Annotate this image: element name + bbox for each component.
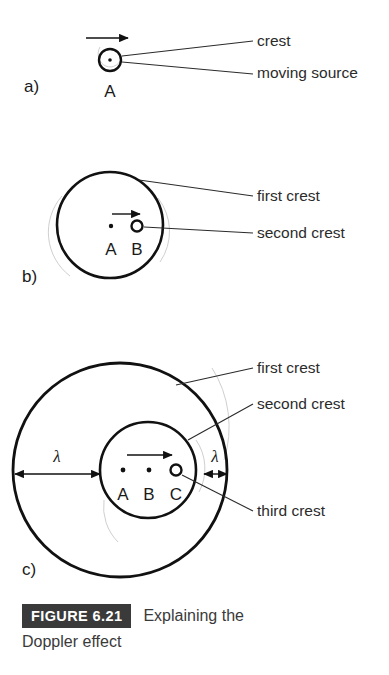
figure-number-badge: FIGURE 6.21 bbox=[22, 604, 131, 628]
figure-caption-line-2: Doppler effect bbox=[22, 633, 362, 651]
panel-c-point-label-C: C bbox=[170, 485, 182, 504]
panel-b-callout-first-crest: first crest bbox=[257, 187, 321, 204]
panel-b-leader-first-crest bbox=[139, 180, 253, 196]
panel-c-wavelength-behind-label: λ bbox=[52, 447, 60, 466]
panel-a-point-label-A: A bbox=[104, 82, 116, 101]
panel-c-point-label-B: B bbox=[143, 485, 154, 504]
panel-c-callout-second-crest: second crest bbox=[257, 395, 346, 412]
panel-a-letter: a) bbox=[24, 77, 39, 96]
scan-artifacts bbox=[48, 47, 229, 542]
panel-a-leader-crest bbox=[122, 41, 253, 56]
panel-c-callout-third-crest: third crest bbox=[257, 502, 326, 519]
figure-caption-line-1: Explaining the bbox=[143, 607, 244, 625]
panel-a-callout-crest: crest bbox=[257, 32, 291, 49]
panel-a: a) A crest moving source bbox=[24, 32, 358, 101]
panel-a-leader-moving-source bbox=[122, 62, 253, 74]
panel-b-leader-second-crest bbox=[144, 227, 253, 233]
panel-c-leader-first-crest bbox=[176, 368, 253, 385]
panel-b-letter: b) bbox=[22, 267, 37, 286]
figure-caption: FIGURE 6.21Explaining the Doppler effect bbox=[22, 604, 362, 651]
panel-c-callout-first-crest: first crest bbox=[257, 359, 321, 376]
panel-c-point-label-A: A bbox=[117, 485, 129, 504]
panel-c-letter: c) bbox=[22, 560, 36, 579]
panel-b: b) A B first crest second crest bbox=[22, 172, 346, 286]
panel-c-leader-third-crest bbox=[182, 475, 253, 511]
panel-b-point-label-B: B bbox=[131, 240, 142, 259]
panel-c-wavelength-ahead-label: λ bbox=[210, 447, 218, 466]
panel-c: c) A B C λ λ first crest second crest th… bbox=[13, 359, 346, 579]
figure-diagram: a) A crest moving source b) A B first cr… bbox=[0, 0, 389, 675]
panel-b-second-crest-circle bbox=[132, 221, 143, 232]
panel-b-callout-second-crest: second crest bbox=[257, 224, 346, 241]
doppler-figure: a) A crest moving source b) A B first cr… bbox=[0, 0, 389, 675]
panel-b-point-label-A: A bbox=[105, 240, 117, 259]
panel-a-source-dot bbox=[108, 58, 112, 62]
panel-c-third-crest-circle bbox=[171, 465, 182, 476]
panel-b-point-dot-A bbox=[109, 224, 113, 228]
panel-c-point-dot-B bbox=[147, 468, 152, 473]
panel-a-callout-moving-source: moving source bbox=[257, 64, 358, 81]
panel-c-point-dot-A bbox=[121, 468, 126, 473]
